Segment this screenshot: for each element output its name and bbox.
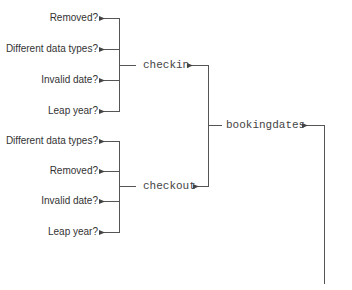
checkout-leaf-removed: Removed? xyxy=(50,165,98,177)
node-checkin: checkin xyxy=(143,59,189,71)
root-incoming-connector xyxy=(307,125,325,284)
checkin-leaf-invalid-date: Invalid date? xyxy=(41,74,98,86)
checkin-leaf-connectors xyxy=(104,18,136,112)
checkin-leaf-different-data-types: Different data types? xyxy=(6,43,98,55)
bookingdates-connectors xyxy=(192,65,222,187)
checkin-leaf-leap-year: Leap year? xyxy=(48,105,98,117)
checkin-leaf-removed: Removed? xyxy=(50,12,98,24)
checkout-leaf-leap-year: Leap year? xyxy=(48,226,98,238)
mind-map-diagram: Removed? Different data types? Invalid d… xyxy=(0,0,352,290)
checkout-leaf-different-data-types: Different data types? xyxy=(6,135,98,147)
node-checkout: checkout xyxy=(143,180,196,192)
node-bookingdates: bookingdates xyxy=(226,119,305,131)
checkout-leaf-connectors xyxy=(104,141,136,233)
checkout-leaf-invalid-date: Invalid date? xyxy=(41,195,98,207)
